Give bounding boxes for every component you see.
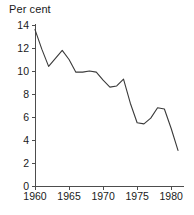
x-tick-label: 1965 — [57, 190, 81, 202]
y-tick-label: 2 — [23, 157, 29, 169]
data-series-line — [35, 30, 178, 151]
x-axis-tick-labels: 19601965197019751980 — [23, 190, 183, 202]
y-tick-label: 4 — [23, 134, 29, 146]
y-axis-tick-labels: 02468101214 — [17, 19, 29, 192]
x-tick-label: 1980 — [160, 190, 184, 202]
y-tick-label: 8 — [23, 88, 29, 100]
x-tick-label: 1970 — [91, 190, 115, 202]
y-tick-label: 10 — [17, 65, 29, 77]
line-chart-plot: 02468101214 19601965197019751980 — [0, 0, 194, 215]
x-axis-tick-marks — [35, 186, 171, 190]
y-tick-label: 6 — [23, 111, 29, 123]
y-tick-label: 14 — [17, 19, 29, 31]
chart-figure: Per cent 02468101214 1960196519701975198… — [0, 0, 194, 215]
y-tick-label: 12 — [17, 42, 29, 54]
x-tick-label: 1975 — [125, 190, 149, 202]
x-tick-label: 1960 — [23, 190, 47, 202]
